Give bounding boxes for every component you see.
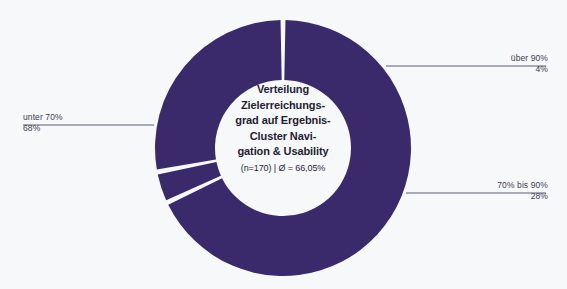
center-title-line-2: Zielerreichungs- xyxy=(215,98,351,114)
donut-center-label: Verteilung Zielerreichungs- grad auf Erg… xyxy=(215,82,351,175)
callout-value-unter-70: 68% xyxy=(23,123,63,134)
callout-label-unter-70: unter 70% 68% xyxy=(23,112,63,134)
center-subtitle: (n=170) | Ø = 66,05% xyxy=(215,161,351,175)
callout-value-70-bis-90: 28% xyxy=(497,191,548,202)
callout-category-70-bis-90: 70% bis 90% xyxy=(497,180,548,191)
callout-category-ueber-90: über 90% xyxy=(511,53,548,64)
callout-label-70-bis-90: 70% bis 90% 28% xyxy=(497,180,548,202)
center-title-line-5: gation & Usability xyxy=(215,144,351,160)
donut-chart-figure: über 90% 4% 70% bis 90% 28% unter 70% 68… xyxy=(0,0,567,289)
callout-category-unter-70: unter 70% xyxy=(23,112,63,123)
center-title-line-4: Cluster Navi- xyxy=(215,129,351,145)
center-title-line-3: grad auf Ergebnis- xyxy=(215,113,351,129)
callout-value-ueber-90: 4% xyxy=(511,64,548,75)
callout-label-ueber-90: über 90% 4% xyxy=(511,53,548,75)
center-title-line-1: Verteilung xyxy=(215,82,351,98)
